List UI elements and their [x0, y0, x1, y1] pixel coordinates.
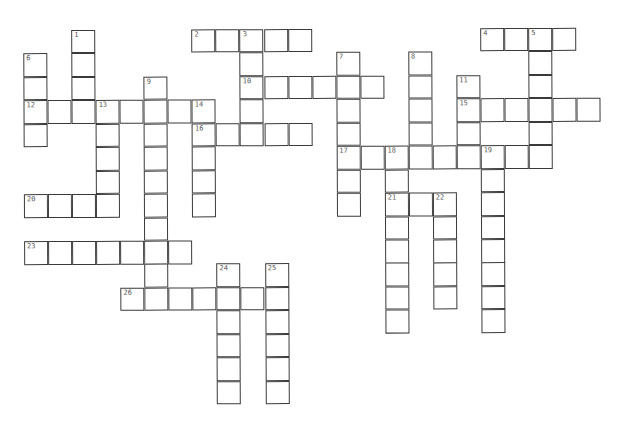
crossword-cell[interactable]: [481, 239, 505, 263]
crossword-cell[interactable]: [336, 99, 360, 123]
crossword-cell[interactable]: 5: [528, 28, 552, 52]
crossword-cell[interactable]: [528, 51, 552, 75]
crossword-cell[interactable]: [408, 122, 432, 146]
crossword-cell[interactable]: [336, 169, 360, 193]
crossword-cell[interactable]: [144, 194, 168, 218]
crossword-cell[interactable]: [71, 77, 95, 101]
crossword-cell[interactable]: [265, 357, 289, 381]
crossword-cell[interactable]: [433, 216, 457, 240]
crossword-cell[interactable]: [385, 286, 409, 310]
crossword-cell[interactable]: [23, 77, 47, 101]
crossword-cell[interactable]: [265, 287, 289, 311]
crossword-cell[interactable]: [144, 100, 168, 124]
crossword-cell[interactable]: [241, 287, 265, 311]
crossword-cell[interactable]: 9: [144, 76, 168, 100]
crossword-cell[interactable]: [529, 122, 553, 146]
crossword-cell[interactable]: [481, 169, 505, 193]
crossword-cell[interactable]: [265, 381, 289, 405]
crossword-cell[interactable]: [96, 147, 120, 171]
crossword-cell[interactable]: [385, 216, 409, 240]
crossword-cell[interactable]: [71, 53, 95, 77]
crossword-cell[interactable]: [48, 100, 72, 124]
crossword-cell[interactable]: [193, 287, 217, 311]
crossword-cell[interactable]: [216, 29, 240, 53]
crossword-cell[interactable]: [72, 241, 96, 265]
crossword-cell[interactable]: 2: [192, 29, 216, 53]
crossword-cell[interactable]: [217, 381, 241, 405]
crossword-cell[interactable]: [168, 100, 192, 124]
crossword-cell[interactable]: [217, 358, 241, 382]
crossword-cell[interactable]: [288, 76, 312, 100]
crossword-cell[interactable]: [552, 28, 576, 52]
crossword-cell[interactable]: 4: [480, 28, 504, 52]
crossword-cell[interactable]: [265, 334, 289, 358]
crossword-cell[interactable]: [385, 310, 409, 334]
crossword-cell[interactable]: [120, 241, 144, 265]
crossword-cell[interactable]: [577, 98, 601, 122]
crossword-cell[interactable]: 13: [96, 100, 120, 124]
crossword-cell[interactable]: [264, 76, 288, 100]
crossword-cell[interactable]: [433, 263, 457, 287]
crossword-cell[interactable]: 24: [217, 264, 241, 288]
crossword-cell[interactable]: [433, 146, 457, 170]
crossword-cell[interactable]: [505, 145, 529, 169]
crossword-cell[interactable]: 25: [265, 263, 289, 287]
crossword-cell[interactable]: [360, 75, 384, 99]
crossword-cell[interactable]: [144, 170, 168, 194]
crossword-cell[interactable]: 22: [433, 192, 457, 216]
crossword-cell[interactable]: 21: [385, 193, 409, 217]
crossword-cell[interactable]: [528, 75, 552, 99]
crossword-cell[interactable]: 8: [408, 52, 432, 76]
crossword-cell[interactable]: [217, 287, 241, 311]
crossword-cell[interactable]: [385, 263, 409, 287]
crossword-cell[interactable]: [288, 123, 312, 147]
crossword-cell[interactable]: [265, 310, 289, 334]
crossword-cell[interactable]: [504, 98, 528, 122]
crossword-cell[interactable]: [144, 123, 168, 147]
crossword-cell[interactable]: 15: [456, 99, 480, 123]
crossword-cell[interactable]: [529, 98, 553, 122]
crossword-cell[interactable]: 1: [71, 30, 95, 54]
crossword-cell[interactable]: [481, 192, 505, 216]
crossword-cell[interactable]: [240, 53, 264, 77]
crossword-cell[interactable]: [96, 124, 120, 148]
crossword-cell[interactable]: [72, 194, 96, 218]
crossword-cell[interactable]: [217, 311, 241, 335]
crossword-cell[interactable]: [481, 286, 505, 310]
crossword-cell[interactable]: [240, 123, 264, 147]
crossword-cell[interactable]: 16: [192, 123, 216, 147]
crossword-cell[interactable]: [48, 241, 72, 265]
crossword-cell[interactable]: [144, 264, 168, 288]
crossword-cell[interactable]: [360, 146, 384, 170]
crossword-cell[interactable]: [481, 216, 505, 240]
crossword-cell[interactable]: 12: [23, 100, 47, 124]
crossword-cell[interactable]: [145, 287, 169, 311]
crossword-cell[interactable]: [169, 287, 193, 311]
crossword-cell[interactable]: [433, 239, 457, 263]
crossword-cell[interactable]: [217, 334, 241, 358]
crossword-cell[interactable]: 26: [120, 288, 144, 312]
crossword-cell[interactable]: [408, 146, 432, 170]
crossword-cell[interactable]: [144, 217, 168, 241]
crossword-cell[interactable]: 20: [24, 194, 48, 218]
crossword-cell[interactable]: [457, 145, 481, 169]
crossword-cell[interactable]: [456, 122, 480, 146]
crossword-cell[interactable]: [433, 286, 457, 310]
crossword-cell[interactable]: [553, 98, 577, 122]
crossword-cell[interactable]: [385, 169, 409, 193]
crossword-cell[interactable]: [96, 194, 120, 218]
crossword-cell[interactable]: [504, 28, 528, 52]
crossword-cell[interactable]: [408, 75, 432, 99]
crossword-cell[interactable]: [72, 100, 96, 124]
crossword-cell[interactable]: [481, 309, 505, 333]
crossword-cell[interactable]: [96, 170, 120, 194]
crossword-cell[interactable]: [481, 263, 505, 287]
crossword-cell[interactable]: 11: [456, 75, 480, 99]
crossword-cell[interactable]: [144, 147, 168, 171]
crossword-cell[interactable]: [216, 123, 240, 147]
crossword-cell[interactable]: [480, 98, 504, 122]
crossword-cell[interactable]: [192, 170, 216, 194]
crossword-cell[interactable]: [337, 193, 361, 217]
crossword-cell[interactable]: [529, 145, 553, 169]
crossword-cell[interactable]: 18: [384, 146, 408, 170]
